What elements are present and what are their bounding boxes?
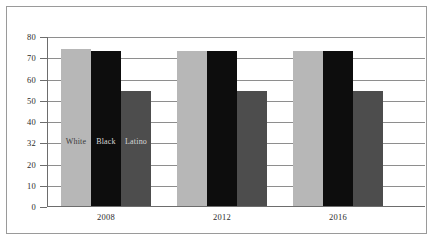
y-axis-tick-label: 70 — [27, 53, 36, 63]
y-axis-tick-label: 80 — [27, 32, 36, 42]
plot-area: 01020324050607080 WhiteBlackLatino 20082… — [47, 37, 425, 207]
x-axis-line — [47, 206, 425, 207]
series-label-white: White — [66, 137, 87, 146]
y-axis-tick-mark — [40, 58, 47, 59]
bar-white-2008[interactable]: White — [61, 49, 91, 206]
y-axis-tick-mark — [40, 122, 47, 123]
y-axis-tick-label: 32 — [27, 138, 36, 148]
bar-latino-2012[interactable] — [237, 91, 267, 206]
x-axis-label-2012: 2012 — [213, 212, 231, 222]
y-axis-tick-label: 20 — [27, 160, 36, 170]
y-axis-tick-label: 60 — [27, 75, 36, 85]
chart-figure: 01020324050607080 WhiteBlackLatino 20082… — [0, 0, 433, 240]
bar-latino-2016[interactable] — [353, 91, 383, 206]
y-axis-tick-mark — [40, 165, 47, 166]
bar-black-2016[interactable] — [323, 51, 353, 206]
y-axis-tick-mark — [40, 207, 47, 208]
bar-white-2016[interactable] — [293, 51, 323, 206]
y-axis-tick-label: 10 — [27, 181, 36, 191]
chart-frame: 01020324050607080 WhiteBlackLatino 20082… — [6, 6, 427, 234]
y-axis-tick-mark — [40, 37, 47, 38]
bar-black-2008[interactable]: Black — [91, 51, 121, 206]
y-axis-tick-label: 40 — [27, 117, 36, 127]
y-axis-tick-label: 0 — [32, 202, 36, 212]
bar-black-2012[interactable] — [207, 51, 237, 206]
bar-latino-2008[interactable]: Latino — [121, 91, 151, 206]
x-axis-label-2016: 2016 — [329, 212, 347, 222]
series-label-latino: Latino — [125, 137, 147, 146]
x-axis-label-2008: 2008 — [97, 212, 115, 222]
series-label-black: Black — [96, 137, 116, 146]
y-axis-tick-mark — [40, 101, 47, 102]
y-axis-tick-mark — [40, 186, 47, 187]
bar-white-2012[interactable] — [177, 51, 207, 206]
y-axis-tick-mark — [40, 143, 47, 144]
y-axis-tick-mark — [40, 80, 47, 81]
y-axis-line — [47, 37, 48, 207]
gridline — [47, 37, 425, 38]
y-axis-tick-label: 50 — [27, 96, 36, 106]
